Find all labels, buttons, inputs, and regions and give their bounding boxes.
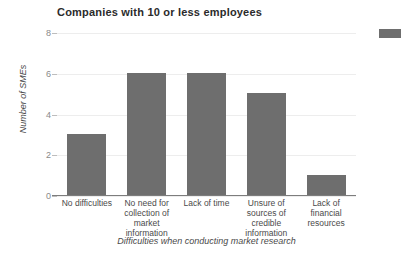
chart-title: Companies with 10 or less employees (57, 6, 357, 18)
gridline (57, 196, 356, 197)
y-axis-tick-label: 6 (46, 69, 51, 79)
x-axis-tick-label: No need for collection of market informa… (117, 198, 177, 238)
y-axis-tick-label: 0 (46, 191, 51, 201)
bar (247, 93, 286, 195)
x-axis-tick-label: Lack of time (177, 198, 237, 208)
y-axis-title: Number of SMEs (18, 54, 28, 144)
bar-chart: Companies with 10 or less employees Numb… (0, 0, 410, 259)
bar-slot (57, 33, 117, 195)
y-axis-tick-mark (52, 196, 57, 197)
bar-slot (236, 33, 296, 195)
bar (127, 73, 166, 195)
bar-slot (296, 33, 356, 195)
x-axis-tick-label: No difficulties (57, 198, 117, 208)
x-axis-line (52, 195, 356, 196)
bar (67, 134, 106, 195)
y-axis-tick-label: 4 (46, 110, 51, 120)
bar (307, 175, 346, 195)
bar (187, 73, 226, 195)
x-axis-tick-labels: No difficultiesNo need for collection of… (57, 198, 356, 238)
x-axis-title: Difficulties when conducting market rese… (57, 236, 356, 246)
x-axis-tick-label: Unsure of sources of credible informatio… (236, 198, 296, 238)
x-axis-tick-label: Lack of financial resources (296, 198, 356, 228)
y-axis-tick-label: 2 (46, 150, 51, 160)
plot-area: 02468 (57, 33, 356, 196)
bar-slot (117, 33, 177, 195)
bar-slot (177, 33, 237, 195)
legend-color-swatch (379, 29, 401, 38)
bar-series (57, 33, 356, 195)
y-axis-tick-label: 8 (46, 28, 51, 38)
legend (379, 29, 404, 38)
